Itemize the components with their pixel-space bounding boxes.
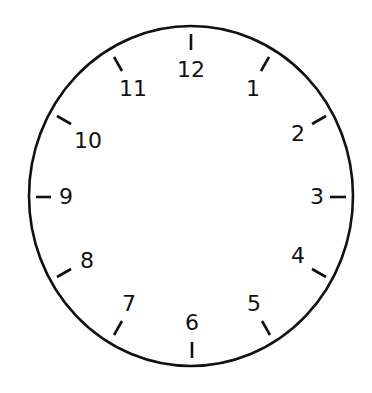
- hour-numeral-8: 8: [80, 250, 94, 272]
- hour-numeral-10: 10: [74, 130, 102, 152]
- hour-numeral-2: 2: [291, 123, 305, 145]
- hour-numeral-5: 5: [247, 293, 261, 315]
- hour-numeral-4: 4: [291, 245, 305, 267]
- hour-tick-2: [312, 116, 326, 124]
- hour-tick-7: [114, 321, 122, 335]
- hour-numeral-9: 9: [59, 186, 73, 208]
- hour-numeral-12: 12: [177, 59, 205, 81]
- hour-tick-8: [57, 269, 71, 277]
- hour-numeral-3: 3: [310, 186, 324, 208]
- hour-numeral-11: 11: [119, 78, 147, 100]
- hour-numeral-6: 6: [185, 312, 199, 334]
- hour-tick-10: [57, 116, 71, 124]
- hour-tick-4: [312, 269, 326, 277]
- clock-face: 121234567891011: [0, 0, 372, 393]
- hour-tick-1: [261, 57, 269, 71]
- hour-numeral-1: 1: [246, 78, 260, 100]
- hour-tick-5: [262, 321, 270, 335]
- hour-numeral-7: 7: [122, 293, 136, 315]
- hour-tick-11: [114, 57, 122, 71]
